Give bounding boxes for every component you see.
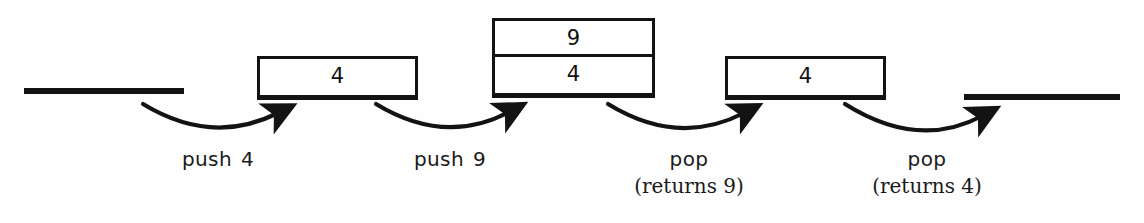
operation-label-pop-4: pop (returns 4) [842, 147, 1012, 198]
operation-name: pop [604, 147, 774, 171]
stack-operations-diagram: 4 9 4 4 push4 push9 pop (returns 9) pop [0, 0, 1144, 223]
operation-argument: 4 [241, 147, 254, 171]
stack-cell-value: 4 [495, 57, 652, 93]
arrow-push-4 [143, 104, 278, 128]
empty-stack-baseline-start [24, 88, 184, 94]
operation-name-and-argument: push9 [380, 147, 520, 171]
stack-cell-value: 4 [728, 59, 883, 95]
stack-cell-value: 4 [260, 59, 415, 95]
operation-name: push [414, 147, 464, 171]
operation-name: push [182, 147, 232, 171]
operation-label-push-4: push4 [148, 147, 288, 171]
arrow-pop-9 [608, 104, 744, 128]
stack-state-one: 4 [257, 56, 418, 100]
arrow-pop-4 [845, 104, 982, 130]
operation-label-push-9: push9 [380, 147, 520, 171]
operation-label-pop-9: pop (returns 9) [604, 147, 774, 198]
stack-cell-value: 9 [495, 21, 652, 57]
stack-state-three: 4 [725, 56, 886, 100]
operation-return-value: (returns 9) [604, 174, 774, 198]
operation-return-value: (returns 4) [842, 174, 1012, 198]
stack-state-two: 9 4 [492, 18, 655, 98]
operation-name: pop [842, 147, 1012, 171]
empty-stack-baseline-end [964, 94, 1120, 100]
arrow-push-9 [376, 104, 509, 127]
operation-argument: 9 [473, 147, 486, 171]
operation-name-and-argument: push4 [148, 147, 288, 171]
